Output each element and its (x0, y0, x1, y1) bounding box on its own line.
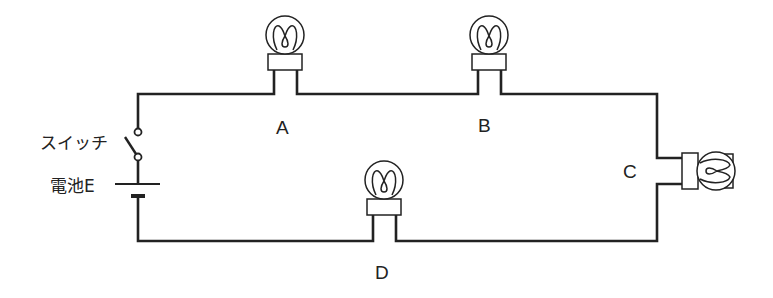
bulb-c-body (682, 152, 735, 190)
switch-terminal-top (135, 129, 142, 136)
circuit-diagram (0, 0, 773, 298)
bulb-a (266, 16, 304, 70)
switch (125, 129, 142, 161)
bulb-c-label: C (623, 162, 637, 181)
wire-top (138, 70, 682, 241)
switch-lever (125, 137, 136, 154)
bulb-d-label: D (375, 263, 389, 282)
switch-label: スイッチ (40, 135, 108, 152)
battery (115, 184, 160, 196)
battery-label: 電池E (50, 178, 95, 195)
bulb-b (470, 16, 508, 70)
bulb-a-label: A (276, 118, 289, 137)
switch-terminal-bottom (135, 154, 142, 161)
bulb-b-label: B (478, 116, 491, 135)
bulb-d (365, 161, 403, 215)
